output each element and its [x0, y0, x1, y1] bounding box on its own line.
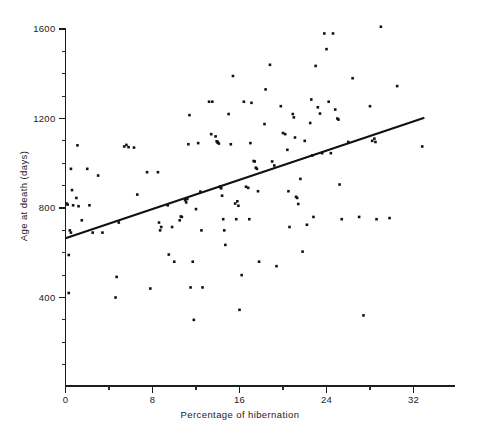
- data-point: [168, 253, 171, 256]
- x-tick-label: 8: [150, 394, 156, 405]
- data-point: [185, 201, 188, 204]
- data-point: [149, 287, 152, 290]
- data-point: [69, 229, 72, 232]
- data-point: [362, 314, 365, 317]
- data-point: [88, 204, 91, 207]
- data-point: [125, 144, 128, 147]
- data-point: [197, 142, 200, 145]
- data-point: [218, 142, 221, 145]
- data-point: [312, 216, 315, 219]
- data-point: [291, 113, 294, 116]
- data-point: [325, 48, 328, 51]
- data-point: [249, 142, 252, 145]
- data-point: [388, 217, 391, 220]
- data-point: [340, 218, 343, 221]
- data-point: [75, 197, 78, 200]
- x-tick-label: 0: [63, 394, 69, 405]
- data-point: [380, 25, 383, 28]
- data-point: [146, 171, 149, 174]
- data-point: [77, 205, 80, 208]
- data-point: [369, 105, 372, 108]
- data-point: [301, 250, 304, 253]
- data-point: [235, 218, 238, 221]
- data-point: [297, 203, 300, 206]
- data-point: [232, 75, 235, 78]
- data-point: [223, 229, 226, 232]
- data-point: [337, 118, 340, 121]
- data-point: [133, 146, 136, 149]
- data-point: [330, 152, 333, 155]
- y-tick-label: 1200: [33, 113, 55, 124]
- data-point: [237, 204, 240, 207]
- data-point: [210, 133, 213, 136]
- data-point: [358, 216, 361, 219]
- data-point: [247, 187, 250, 190]
- data-point: [317, 106, 320, 109]
- data-point: [193, 319, 196, 322]
- data-point: [243, 100, 246, 103]
- axes: [66, 29, 456, 386]
- data-point: [214, 135, 217, 138]
- data-point: [250, 102, 253, 105]
- data-point: [70, 168, 73, 171]
- regression-line: [66, 118, 425, 238]
- data-point: [67, 254, 70, 257]
- data-point: [157, 171, 160, 174]
- data-point: [86, 168, 89, 171]
- data-point: [67, 292, 70, 295]
- data-point: [258, 260, 261, 263]
- data-point: [187, 143, 190, 146]
- x-tick-label: 32: [408, 394, 419, 405]
- data-point: [309, 122, 312, 125]
- data-point: [314, 65, 317, 68]
- data-point: [66, 203, 69, 206]
- data-point: [240, 274, 243, 277]
- data-point: [211, 100, 214, 103]
- data-point: [273, 164, 276, 167]
- data-point: [303, 140, 306, 143]
- data-point: [275, 265, 278, 268]
- y-tick-label: 800: [39, 202, 56, 213]
- data-point: [296, 197, 299, 200]
- data-point: [299, 178, 302, 181]
- data-point: [371, 140, 374, 143]
- x-tick-label: 24: [321, 394, 332, 405]
- data-point: [70, 231, 73, 234]
- data-point: [421, 145, 424, 148]
- data-point: [293, 116, 296, 119]
- data-point: [248, 218, 251, 221]
- data-point: [234, 202, 237, 205]
- chart-figure: 4008001200160008162432 Percentage of hib…: [0, 0, 481, 440]
- data-point: [200, 229, 203, 232]
- data-point: [284, 133, 287, 136]
- data-point: [271, 160, 274, 163]
- data-point: [238, 309, 241, 312]
- data-point: [178, 219, 181, 222]
- data-point: [181, 216, 184, 219]
- data-point: [224, 244, 227, 247]
- data-point: [374, 141, 377, 144]
- data-point: [191, 260, 194, 263]
- y-tick-label: 400: [39, 292, 56, 303]
- data-point: [332, 32, 335, 35]
- data-point: [227, 113, 230, 116]
- data-point: [230, 143, 233, 146]
- data-point: [287, 190, 290, 193]
- axis-tick-labels: 4008001200160008162432: [33, 23, 419, 405]
- data-point: [306, 223, 309, 226]
- data-point: [160, 226, 163, 229]
- data-point: [264, 88, 267, 91]
- data-point: [91, 231, 94, 234]
- data-point: [189, 286, 192, 289]
- data-point: [195, 208, 198, 211]
- data-point: [101, 231, 104, 234]
- data-point: [373, 137, 376, 140]
- regression-line-segment: [66, 118, 425, 238]
- scatter-plot: 4008001200160008162432: [0, 0, 481, 440]
- data-point: [375, 218, 378, 221]
- data-point: [327, 100, 330, 103]
- data-point: [319, 112, 322, 115]
- data-point: [334, 108, 337, 111]
- data-point: [159, 229, 162, 232]
- x-tick-label: 16: [234, 394, 245, 405]
